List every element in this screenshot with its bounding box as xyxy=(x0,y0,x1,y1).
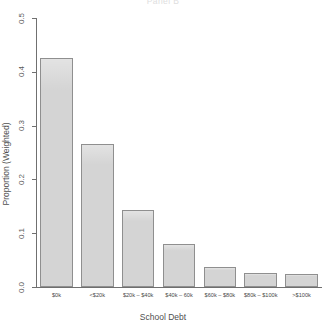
bar xyxy=(204,267,237,287)
y-axis-tick xyxy=(32,126,36,127)
y-axis-tick-label-text: 0.3 xyxy=(18,120,27,131)
y-axis-tick xyxy=(32,72,36,73)
bar xyxy=(244,273,277,287)
bar xyxy=(81,144,114,287)
x-axis-segment xyxy=(40,287,73,288)
y-axis-tick xyxy=(32,233,36,234)
bar xyxy=(285,274,318,287)
x-axis-segment xyxy=(244,287,277,288)
x-axis-segment xyxy=(163,287,196,288)
y-axis-tick-label: 0.5 xyxy=(16,8,28,28)
bar xyxy=(163,244,196,287)
y-axis-tick xyxy=(32,179,36,180)
y-axis-tick-label: 0.4 xyxy=(16,62,28,82)
y-axis-tick-label-text: 0.4 xyxy=(18,66,27,77)
y-axis-tick-label-text: 0.1 xyxy=(18,228,27,239)
x-axis-title: School Debt xyxy=(0,312,326,322)
y-axis-tick-label-text: 0.5 xyxy=(18,12,27,23)
x-axis-segment xyxy=(81,287,114,288)
x-axis-tick-label: >$100k xyxy=(272,292,326,298)
y-axis-title: Proportion (Weighted) xyxy=(0,0,12,327)
x-axis-segment xyxy=(285,287,318,288)
chart-title: Panel B xyxy=(0,0,326,6)
y-axis-tick xyxy=(32,287,36,288)
y-axis-tick-label: 0.1 xyxy=(16,223,28,243)
y-axis-title-label: Proportion (Weighted) xyxy=(0,122,10,205)
x-axis-segment xyxy=(204,287,237,288)
y-axis-tick-label: 0.2 xyxy=(16,169,28,189)
y-axis-tick-label-text: 0.2 xyxy=(18,174,27,185)
y-axis-tick xyxy=(32,18,36,19)
bar xyxy=(122,210,155,287)
y-axis-tick-label-text: 0.0 xyxy=(18,281,27,292)
y-axis-line xyxy=(36,18,37,288)
bar xyxy=(40,58,73,287)
y-axis-tick-label: 0.3 xyxy=(16,116,28,136)
x-axis-segment xyxy=(122,287,155,288)
